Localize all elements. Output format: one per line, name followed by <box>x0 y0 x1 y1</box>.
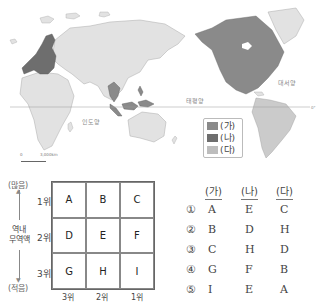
answer-option-3[interactable]: ③ C H D <box>186 243 316 257</box>
option-number: ① <box>186 203 196 216</box>
cell-e: E <box>86 218 120 254</box>
option-da: C <box>280 203 288 216</box>
row-label-3: 3위 <box>37 267 51 280</box>
option-na: F <box>245 263 253 276</box>
cell-h: H <box>86 253 120 289</box>
option-ga: G <box>208 263 217 276</box>
scale-zero: 0 <box>20 152 23 157</box>
equator-label: 0° <box>311 105 316 110</box>
legend-label: (다) <box>220 143 235 156</box>
option-ga: I <box>208 283 212 296</box>
ocean-label-atlantic: 대서양 <box>278 78 296 87</box>
option-na: D <box>245 223 254 236</box>
world-map: 0° <box>0 0 323 160</box>
option-number: ⑤ <box>186 283 196 296</box>
row-label-2: 2위 <box>37 231 51 244</box>
option-na: E <box>245 203 253 216</box>
australia <box>128 112 166 142</box>
option-na: H <box>245 243 255 256</box>
legend-swatch <box>207 146 218 154</box>
cell-f: F <box>120 218 154 254</box>
region-asean <box>108 82 154 116</box>
legend-swatch <box>207 134 218 142</box>
option-da: A <box>280 283 288 296</box>
cell-c: C <box>120 182 154 218</box>
option-ga: A <box>208 203 216 216</box>
option-number: ② <box>186 223 196 236</box>
axis-label-line2: 무역액 <box>8 235 30 245</box>
scale-bar <box>21 161 46 162</box>
trade-matrix: A B C D E F G H I <box>51 181 155 290</box>
answer-header-da: (다) <box>276 183 293 200</box>
ocean-label-indian: 인도양 <box>82 117 100 126</box>
row-label-1: 1위 <box>37 195 51 208</box>
cell-b: B <box>86 182 120 218</box>
answer-option-2[interactable]: ② B D H <box>186 223 316 237</box>
col-label-2: 2위 <box>96 291 108 302</box>
legend-item-na: (나) <box>207 132 242 143</box>
answer-header-na: (나) <box>241 183 258 200</box>
ocean-label-pacific: 태평양 <box>186 96 204 105</box>
cell-g: G <box>52 253 86 289</box>
map-legend: (가) (나) (다) <box>203 118 243 158</box>
answer-option-1[interactable]: ① A E C <box>186 203 316 217</box>
answer-option-5[interactable]: ⑤ I E A <box>186 283 316 297</box>
cell-i: I <box>120 253 154 289</box>
option-da: H <box>280 223 290 236</box>
africa <box>20 72 74 150</box>
cell-a: A <box>52 182 86 218</box>
cell-d: D <box>52 218 86 254</box>
col-label-3: 1위 <box>131 291 143 302</box>
arrow-up-line <box>19 190 20 220</box>
option-ga: C <box>208 243 216 256</box>
region-eu <box>22 34 56 74</box>
scale-distance: 3,000km <box>40 152 58 157</box>
axis-bottom-label: (적음) <box>8 282 28 293</box>
option-ga: B <box>208 223 216 236</box>
col-label-1: 3위 <box>62 291 74 302</box>
option-da: D <box>280 243 289 256</box>
answer-option-4[interactable]: ④ G F B <box>186 263 316 277</box>
axis-label: 역내 무역액 <box>8 225 30 245</box>
legend-swatch <box>207 122 218 130</box>
option-na: E <box>245 283 253 296</box>
option-number: ③ <box>186 243 196 256</box>
answer-header-ga: (가) <box>205 183 222 200</box>
option-da: B <box>280 263 288 276</box>
legend-item-da: (다) <box>207 144 242 155</box>
region-nafta <box>195 16 284 94</box>
arrow-up-icon: ▲ <box>16 187 21 194</box>
axis-label-line1: 역내 <box>8 225 30 235</box>
legend-item-ga: (가) <box>207 120 242 131</box>
option-number: ④ <box>186 263 196 276</box>
